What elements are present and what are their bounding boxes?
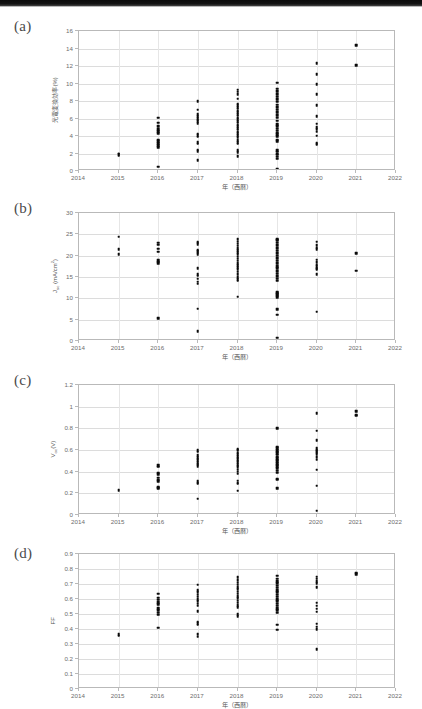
data-point: [197, 280, 200, 283]
y-tick-label: 14: [66, 44, 73, 51]
data-point: [197, 133, 200, 136]
x-tick-mark: [395, 688, 396, 691]
data-point: [236, 586, 239, 589]
y-tick-label: 0.2: [64, 489, 73, 496]
data-point: [236, 102, 239, 105]
x-tick-mark: [316, 514, 317, 517]
data-point: [315, 258, 318, 261]
panel-c: (c) 00.20.40.60.811.22014201520162017201…: [0, 362, 422, 535]
data-point: [315, 458, 318, 461]
data-point: [276, 262, 279, 265]
data-point: [315, 604, 318, 607]
data-point: [197, 267, 200, 270]
data-point: [157, 125, 160, 128]
data-point: [157, 122, 160, 125]
data-point: [276, 607, 279, 610]
data-point: [276, 582, 279, 585]
y-tick-mark: [75, 449, 78, 450]
x-tick-mark: [118, 514, 119, 517]
data-point: [197, 113, 200, 116]
data-point: [315, 261, 318, 264]
x-axis-label: 年（西暦）: [177, 526, 297, 535]
data-point: [157, 317, 160, 320]
y-tick-label: 1.2: [64, 381, 73, 388]
data-point-layer-c: [79, 385, 394, 513]
data-point: [315, 240, 318, 243]
data-point: [276, 445, 279, 448]
data-point: [236, 98, 239, 101]
x-tick-label: 2014: [71, 518, 85, 525]
data-point: [197, 604, 200, 607]
data-point: [197, 249, 200, 252]
data-point: [236, 451, 239, 454]
data-point: [315, 73, 318, 76]
data-point: [157, 251, 160, 254]
data-point: [236, 604, 239, 607]
y-axis-label: Voc(V): [50, 441, 58, 458]
y-tick-label: 0.7: [64, 580, 73, 587]
data-point: [236, 588, 239, 591]
data-point: [197, 449, 200, 452]
data-point: [276, 247, 279, 250]
data-point: [315, 575, 318, 578]
panel-d-plot: 00.10.20.30.40.50.60.70.80.9201420152016…: [0, 535, 422, 709]
data-point: [276, 114, 279, 117]
data-point: [276, 254, 279, 257]
x-tick-label: 2020: [309, 344, 323, 351]
y-tick-label: 1: [70, 402, 73, 409]
x-tick-label: 2018: [230, 344, 244, 351]
data-point: [276, 277, 279, 280]
data-point: [236, 448, 239, 451]
panel-b-plot: 0510152025302014201520162017201820192020…: [0, 190, 422, 362]
data-point: [236, 238, 239, 241]
data-point: [197, 593, 200, 596]
data-point: [276, 584, 279, 587]
plot-area-b: [78, 212, 395, 340]
x-tick-mark: [316, 340, 317, 343]
x-tick-label: 2015: [111, 174, 125, 181]
data-point-layer-b: [79, 213, 394, 339]
y-tick-label: 0.4: [64, 625, 73, 632]
data-point: [355, 410, 358, 413]
data-point: [157, 598, 160, 601]
y-axis-label: FF: [50, 617, 56, 624]
data-point: [236, 597, 239, 600]
data-point: [197, 595, 200, 598]
data-point: [197, 633, 200, 636]
data-point: [197, 620, 200, 623]
data-point: [276, 272, 279, 275]
data-point: [197, 240, 200, 243]
data-point: [157, 464, 160, 467]
data-point: [355, 252, 358, 255]
data-point: [276, 593, 279, 596]
data-point: [276, 244, 279, 247]
data-point: [315, 586, 318, 589]
data-point: [117, 248, 120, 251]
y-tick-label: 0: [70, 337, 73, 344]
data-point: [157, 592, 160, 595]
data-point: [315, 115, 318, 118]
x-tick-mark: [157, 340, 158, 343]
data-point: [315, 580, 318, 583]
data-point: [276, 87, 279, 90]
x-tick-label: 2014: [71, 344, 85, 351]
x-tick-mark: [78, 170, 79, 173]
y-tick-label: 0: [70, 685, 73, 692]
data-point: [236, 576, 239, 579]
data-point: [197, 159, 200, 162]
data-point: [276, 119, 279, 122]
data-point: [276, 595, 279, 598]
data-point: [315, 83, 318, 86]
x-tick-label: 2015: [111, 518, 125, 525]
y-tick-label: 4: [70, 132, 73, 139]
x-tick-mark: [355, 170, 356, 173]
x-tick-label: 2016: [150, 692, 164, 699]
x-tick-mark: [157, 514, 158, 517]
data-point: [197, 330, 200, 333]
y-tick-mark: [75, 598, 78, 599]
data-point: [315, 122, 318, 125]
x-tick-mark: [157, 688, 158, 691]
data-point: [315, 509, 318, 512]
x-tick-mark: [355, 688, 356, 691]
x-tick-mark: [316, 688, 317, 691]
